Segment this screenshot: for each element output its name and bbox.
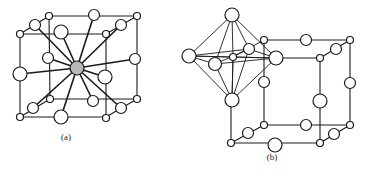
atom	[259, 77, 270, 88]
atom	[225, 93, 239, 107]
atom	[54, 25, 68, 39]
atom	[269, 51, 283, 65]
atom	[182, 49, 196, 63]
atom	[209, 58, 222, 71]
atom	[89, 10, 100, 21]
atom	[28, 103, 39, 114]
atom	[345, 78, 356, 89]
atom	[116, 20, 127, 31]
atom	[230, 54, 237, 61]
figure-b-caption: (b)	[267, 152, 278, 162]
atom	[17, 114, 24, 121]
atom	[17, 31, 24, 38]
atom	[103, 31, 110, 38]
bond-line	[20, 68, 77, 74]
atom	[329, 129, 340, 140]
atom	[347, 37, 354, 44]
figure-b-octahedral-cell	[182, 8, 356, 152]
octahedron-edge	[189, 15, 232, 56]
atom	[347, 122, 354, 129]
atom	[98, 70, 112, 84]
atom	[30, 20, 41, 31]
atom	[228, 140, 235, 147]
atom	[301, 120, 312, 131]
atom	[225, 8, 239, 22]
atom	[130, 54, 141, 65]
atom	[301, 35, 312, 46]
atom	[261, 122, 268, 129]
atom	[331, 44, 342, 55]
atom	[103, 115, 110, 122]
atom	[54, 110, 68, 124]
atom	[116, 103, 127, 114]
atom	[88, 96, 99, 107]
atom	[46, 13, 53, 20]
atom	[43, 53, 54, 64]
atom	[243, 128, 254, 139]
center-atom	[70, 61, 84, 75]
figure-a-caption: (a)	[61, 132, 71, 142]
atom	[134, 96, 141, 103]
atom	[47, 96, 54, 103]
atom	[261, 37, 268, 44]
atom	[268, 138, 282, 152]
atom	[313, 94, 327, 108]
figure-a-cubic-cell	[13, 10, 141, 125]
crystal-structure-diagram	[0, 0, 368, 176]
atom	[134, 13, 141, 20]
atom	[317, 55, 324, 62]
atom	[244, 44, 255, 55]
atom	[13, 67, 27, 81]
atom	[317, 140, 324, 147]
